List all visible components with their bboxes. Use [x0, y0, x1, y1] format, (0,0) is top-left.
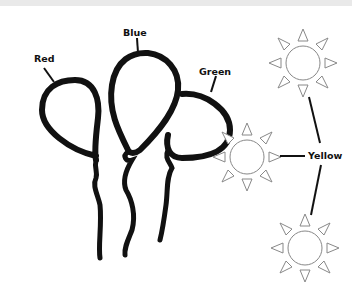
diagram-canvas: [0, 0, 352, 290]
label-yellow: Yellow: [308, 150, 342, 161]
sun-icon-bottom: [271, 214, 339, 282]
label-red: Red: [34, 53, 55, 64]
label-green: Green: [199, 66, 231, 77]
red-balloon: [42, 68, 101, 258]
sun-icon-top: [269, 29, 337, 97]
label-blue: Blue: [123, 27, 147, 38]
sun-icon-middle: [213, 123, 281, 191]
